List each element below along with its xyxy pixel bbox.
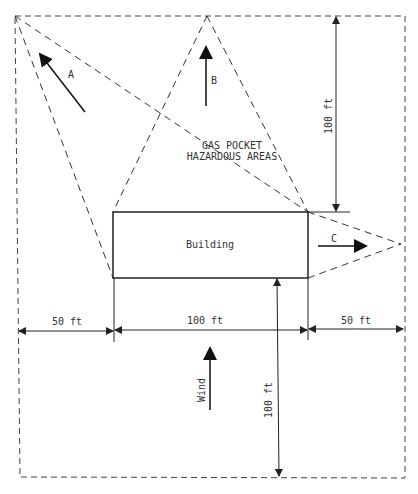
dim-center-width: 100 ft bbox=[187, 315, 223, 326]
wind-label: Wind bbox=[196, 378, 207, 402]
hazard-label-1: GAS POCKET bbox=[202, 140, 262, 151]
arrow-a-label: A bbox=[68, 69, 74, 80]
dim-left-width: 50 ft bbox=[52, 316, 82, 327]
hazard-label-2: HAZARDOUS AREAS bbox=[187, 151, 277, 162]
arrow-c-label: C bbox=[331, 233, 337, 244]
dim-top-height: 100 ft bbox=[323, 98, 334, 134]
arrow-a-icon bbox=[40, 54, 85, 112]
dim-bottom-height-line bbox=[277, 279, 279, 476]
dim-bottom-height: 100 ft bbox=[263, 382, 274, 418]
dim-right-width: 50 ft bbox=[341, 315, 371, 326]
gas-pocket-hazard-diagram: Building GAS POCKET HAZARDOUS AREAS A B … bbox=[0, 0, 418, 494]
building-label: Building bbox=[186, 239, 234, 250]
arrow-b-label: B bbox=[211, 75, 217, 86]
